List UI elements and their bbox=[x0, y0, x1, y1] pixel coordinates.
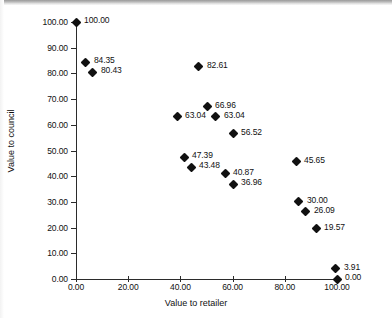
x-tick-label: 60.00 bbox=[209, 283, 257, 292]
x-tick-label: 0.00 bbox=[52, 283, 100, 292]
data-point-marker bbox=[211, 112, 221, 122]
y-tick-label: 10.00 bbox=[24, 249, 68, 258]
y-tick-mark bbox=[71, 99, 77, 100]
data-point-marker bbox=[88, 67, 98, 77]
y-tick-label: 30.00 bbox=[24, 198, 68, 207]
data-point-label: 36.96 bbox=[241, 178, 262, 187]
y-tick-label: 100.00 bbox=[24, 18, 68, 27]
data-point-marker bbox=[294, 197, 304, 207]
data-point-marker bbox=[179, 152, 189, 162]
data-point-label: 63.04 bbox=[224, 111, 245, 120]
x-tick-label: 40.00 bbox=[156, 283, 204, 292]
data-point-marker bbox=[186, 162, 196, 172]
data-point-marker bbox=[331, 264, 341, 274]
y-tick-label: 80.00 bbox=[24, 69, 68, 78]
y-axis-label: Value to council bbox=[6, 86, 16, 196]
data-point-label: 40.87 bbox=[233, 168, 254, 177]
data-point-label: 26.09 bbox=[314, 206, 335, 215]
y-tick-mark bbox=[71, 253, 77, 254]
data-point-label: 63.04 bbox=[185, 111, 206, 120]
y-tick-mark bbox=[71, 176, 77, 177]
data-point-marker bbox=[311, 224, 321, 234]
data-point-label: 82.61 bbox=[207, 61, 228, 70]
data-point-label: 3.91 bbox=[344, 263, 360, 272]
data-point-marker bbox=[194, 62, 204, 72]
data-point-label: 43.48 bbox=[199, 161, 220, 170]
y-tick-mark bbox=[71, 202, 77, 203]
scatter-chart: 0.0010.0020.0030.0040.0050.0060.0070.008… bbox=[0, 0, 392, 318]
x-axis-label: Value to retailer bbox=[0, 298, 392, 308]
x-tick-label: 80.00 bbox=[261, 283, 309, 292]
y-tick-mark bbox=[71, 228, 77, 229]
x-axis-line bbox=[75, 279, 338, 280]
data-point-marker bbox=[172, 112, 182, 122]
data-point-marker bbox=[301, 207, 311, 217]
data-point-label: 80.43 bbox=[101, 66, 122, 75]
y-tick-mark bbox=[71, 125, 77, 126]
data-point-marker bbox=[71, 17, 81, 27]
y-tick-label: 20.00 bbox=[24, 224, 68, 233]
y-tick-mark bbox=[71, 48, 77, 49]
data-point-marker bbox=[291, 157, 301, 167]
y-tick-label: 40.00 bbox=[24, 172, 68, 181]
y-tick-label: 60.00 bbox=[24, 121, 68, 130]
data-point-label: 100.00 bbox=[84, 16, 109, 25]
data-point-label: 84.35 bbox=[94, 56, 115, 65]
data-point-label: 0.00 bbox=[345, 273, 361, 282]
data-point-label: 47.39 bbox=[192, 151, 213, 160]
y-tick-mark bbox=[71, 73, 77, 74]
y-tick-label: 50.00 bbox=[24, 147, 68, 156]
data-point-marker bbox=[228, 129, 238, 139]
data-point-label: 45.65 bbox=[304, 156, 325, 165]
x-tick-label: 20.00 bbox=[104, 283, 152, 292]
data-point-label: 56.52 bbox=[241, 128, 262, 137]
data-point-marker bbox=[228, 179, 238, 189]
data-point-label: 19.57 bbox=[324, 223, 345, 232]
data-point-marker bbox=[81, 57, 91, 67]
y-tick-label: 70.00 bbox=[24, 95, 68, 104]
y-tick-mark bbox=[71, 151, 77, 152]
data-point-marker bbox=[220, 169, 230, 179]
y-tick-label: 90.00 bbox=[24, 44, 68, 53]
data-point-label: 30.00 bbox=[307, 196, 328, 205]
data-point-label: 66.96 bbox=[215, 101, 236, 110]
